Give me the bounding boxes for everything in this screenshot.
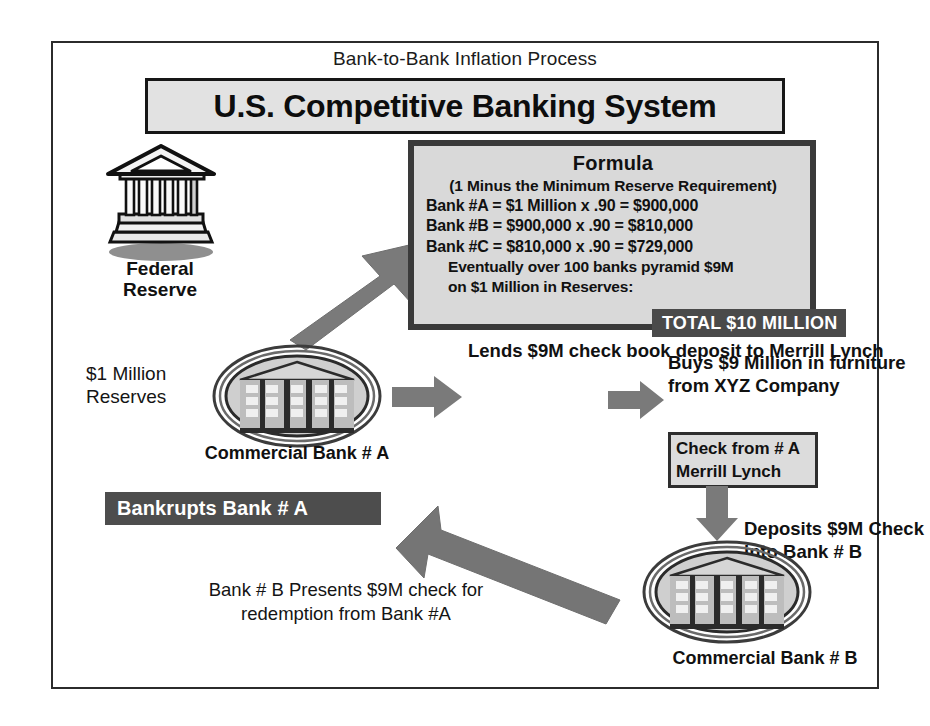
- main-title-box: U.S. Competitive Banking System: [145, 78, 785, 134]
- formula-box: Formula (1 Minus the Minimum Reserve Req…: [408, 140, 816, 330]
- formula-line-b: Bank #B = $900,000 x .90 = $810,000: [426, 216, 800, 236]
- buys-label: Buys $9 Million in furniture from XYZ Co…: [668, 352, 930, 398]
- total-badge-label: TOTAL $10 MILLION: [662, 313, 837, 334]
- commercial-bank-a-label: Commercial Bank # A: [172, 443, 422, 464]
- formula-subheading: (1 Minus the Minimum Reserve Requirement…: [426, 177, 800, 195]
- check-line-2: Merrill Lynch: [676, 461, 815, 484]
- total-badge: TOTAL $10 MILLION: [652, 309, 846, 337]
- presents-label: Bank # B Presents $9M check for redempti…: [196, 578, 496, 626]
- arrow-right-icon: [392, 374, 464, 420]
- formula-line-c: Bank #C = $810,000 x .90 = $729,000: [426, 237, 800, 257]
- check-from-box: Check from # A Merrill Lynch: [668, 432, 818, 488]
- commercial-bank-a-icon: [212, 344, 382, 448]
- page-title: U.S. Competitive Banking System: [214, 88, 717, 125]
- formula-line-a: Bank #A = $1 Million x .90 = $900,000: [426, 196, 800, 216]
- bankrupts-badge: Bankrupts Bank # A: [105, 492, 381, 525]
- supertitle: Bank-to-Bank Inflation Process: [145, 48, 785, 70]
- commercial-bank-b-icon: [642, 540, 812, 644]
- reserves-label: $1 Million Reserves: [86, 362, 206, 408]
- diagram-canvas: Bank-to-Bank Inflation Process U.S. Comp…: [0, 0, 930, 726]
- formula-heading: Formula: [426, 152, 800, 175]
- commercial-bank-b-label: Commercial Bank # B: [640, 648, 890, 669]
- federal-reserve-label: Federal Reserve: [95, 258, 225, 301]
- formula-note-2: on $1 Million in Reserves:: [426, 277, 800, 297]
- arrow-right-icon-2: [608, 379, 666, 421]
- arrow-down-icon: [694, 486, 740, 542]
- federal-reserve-icon: [96, 144, 226, 264]
- bankrupts-badge-label: Bankrupts Bank # A: [117, 497, 308, 520]
- formula-note-1: Eventually over 100 banks pyramid $9M: [426, 257, 800, 277]
- check-line-1: Check from # A: [676, 438, 815, 461]
